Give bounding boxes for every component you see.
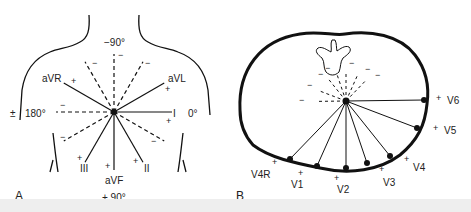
minus-sign: − bbox=[375, 70, 380, 80]
electrode-point-v6 bbox=[421, 97, 427, 103]
chest-lead-line-v3 bbox=[346, 101, 367, 163]
minus-sign: − bbox=[307, 80, 312, 90]
minus-sign-iii: − bbox=[145, 58, 150, 68]
electrode-point-v2 bbox=[343, 165, 349, 171]
chest-lead-line-v1 bbox=[317, 101, 346, 166]
lead-label-v5: V5 bbox=[444, 125, 457, 136]
lead-axis-positive-avr bbox=[64, 83, 114, 112]
chest-lead-negative-v4 bbox=[329, 79, 346, 101]
plus-sign-avl: + bbox=[165, 84, 170, 94]
lead-label-v3: V3 bbox=[383, 177, 396, 188]
plus-sign-v3: + bbox=[379, 164, 384, 174]
minus-sign-i: − bbox=[60, 100, 65, 110]
footer-bar bbox=[0, 199, 471, 212]
lead-axis-positive-ii bbox=[114, 112, 143, 162]
minus-sign: − bbox=[325, 63, 330, 73]
lead-label-avr: aVR bbox=[42, 73, 61, 84]
minus-sign: − bbox=[365, 64, 370, 74]
chest-center-point bbox=[343, 98, 350, 105]
minus-sign: − bbox=[299, 95, 304, 105]
lead-label-ii: II bbox=[144, 163, 150, 174]
minus-sign: − bbox=[318, 69, 323, 79]
minus-sign-avf: − bbox=[118, 50, 123, 60]
chest-cross-section bbox=[240, 33, 428, 171]
lead-axis-negative-ii bbox=[85, 62, 114, 112]
minus-sign-avl: − bbox=[60, 132, 65, 142]
lead-axis-negative-iii bbox=[114, 62, 143, 112]
lead-label-v4: V4 bbox=[413, 162, 426, 173]
plus-sign-ii: + bbox=[133, 156, 138, 166]
lead-axis-negative-avr bbox=[114, 112, 164, 141]
lead-label-avf: aVF bbox=[105, 175, 123, 186]
plus-sign-v1: + bbox=[298, 168, 303, 178]
chest-lead-line-v4r bbox=[290, 101, 346, 159]
plus-sign-v5: + bbox=[433, 123, 438, 133]
degree-label-right: 0° bbox=[188, 108, 198, 119]
lead-axis-positive-avl bbox=[114, 83, 164, 112]
chest-lead-negative-v1 bbox=[346, 75, 357, 101]
electrode-point-v4r bbox=[287, 156, 293, 162]
chest-lead-line-v6 bbox=[346, 100, 424, 101]
lead-label-iii: III bbox=[80, 163, 88, 174]
plusminus-sign: ± bbox=[10, 108, 16, 119]
lead-label-i: I bbox=[173, 108, 176, 119]
ecg-lead-diagram: −90° ± 180° 0° + 90° aVR + aVL + I + II … bbox=[0, 0, 471, 212]
plus-sign-v4: + bbox=[404, 154, 409, 164]
plus-sign-v4r: + bbox=[272, 157, 277, 167]
minus-sign: − bbox=[349, 58, 354, 68]
lead-label-v1: V1 bbox=[291, 179, 304, 190]
electrode-point-v1 bbox=[314, 163, 320, 169]
frontal-center-point bbox=[111, 109, 117, 115]
plus-sign-v6: + bbox=[436, 93, 441, 103]
lead-axis-negative-avl bbox=[64, 112, 114, 141]
minus-sign-ii: − bbox=[92, 58, 97, 68]
degree-label-top: −90° bbox=[104, 37, 125, 48]
lead-label-avl: aVL bbox=[168, 73, 186, 84]
electrode-point-v4 bbox=[387, 153, 393, 159]
plus-sign-avf: + bbox=[105, 161, 110, 171]
chest-lead-negative-v3 bbox=[337, 74, 346, 101]
degree-label-left: 180° bbox=[25, 108, 46, 119]
chest-lead-negative-v4r bbox=[346, 81, 365, 101]
lead-label-v2: V2 bbox=[337, 184, 350, 195]
lead-label-v4r: V4R bbox=[251, 169, 270, 180]
minus-sign-avr: − bbox=[151, 136, 156, 146]
plus-sign-avr: + bbox=[71, 76, 76, 86]
lead-axis-positive-iii bbox=[85, 112, 114, 162]
electrode-point-v5 bbox=[414, 125, 420, 131]
electrode-point-v3 bbox=[364, 160, 370, 166]
lead-label-v6: V6 bbox=[447, 95, 460, 106]
plus-sign-iii: + bbox=[77, 153, 82, 163]
plus-sign-i: + bbox=[166, 116, 171, 126]
plus-sign-v2: + bbox=[334, 173, 339, 183]
